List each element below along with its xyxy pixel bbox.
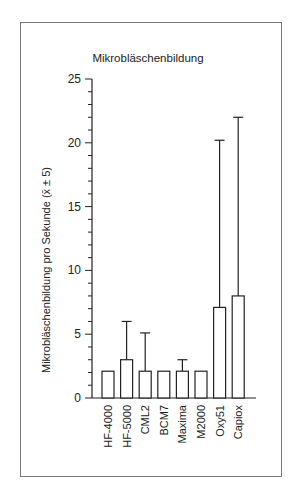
y-tick-label: 10: [68, 263, 82, 277]
x-category-label: Maxima: [176, 404, 188, 443]
x-category-label: HF-5000: [121, 405, 133, 448]
y-tick-label: 15: [68, 200, 82, 214]
x-category-label: Capiox: [232, 405, 244, 440]
bar-maxima: [176, 371, 188, 398]
bar-m2000: [195, 371, 207, 398]
x-category-label: CML2: [139, 405, 151, 434]
bar-bcm7: [158, 371, 170, 398]
y-tick-label: 25: [68, 72, 82, 86]
y-tick-label: 5: [74, 327, 81, 341]
bar-oxy51: [214, 307, 226, 398]
bar-chart: 0510152025HF-4000HF-5000CML2BCM7MaximaM2…: [0, 0, 296, 498]
y-tick-label: 0: [74, 391, 81, 405]
x-category-label: BCM7: [158, 405, 170, 436]
x-category-label: HF-4000: [102, 405, 114, 448]
bar-hf-5000: [121, 360, 133, 398]
bar-cml2: [139, 371, 151, 398]
bar-capiox: [232, 296, 244, 398]
y-tick-label: 20: [68, 136, 82, 150]
x-category-label: Oxy51: [214, 405, 226, 437]
x-category-label: M2000: [195, 405, 207, 439]
bar-hf-4000: [102, 371, 114, 398]
